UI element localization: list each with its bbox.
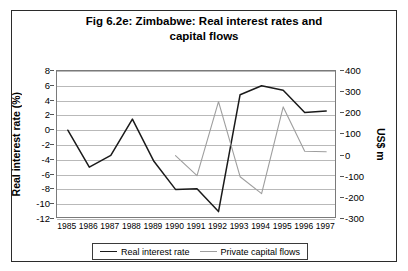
y-axis-left-tick-mark xyxy=(50,85,54,86)
x-axis-tick-label: 1985 xyxy=(57,221,76,231)
y-axis-right-tick-label: 100 xyxy=(345,128,361,139)
series-lines xyxy=(57,71,337,219)
x-axis-tick-label: 1987 xyxy=(100,221,119,231)
y-axis-left-tick-mark xyxy=(50,70,54,71)
y-axis-left-tick-mark xyxy=(50,159,54,160)
x-axis-tick-label: 1992 xyxy=(208,221,227,231)
x-axis-tick-label: 1993 xyxy=(230,221,249,231)
y-axis-right-tick-label: 300 xyxy=(345,86,361,97)
plot-area xyxy=(56,70,336,218)
chart-title-line-1: Fig 6.2e: Zimbabwe: Real interest rates … xyxy=(46,14,362,29)
chart-title: Fig 6.2e: Zimbabwe: Real interest rates … xyxy=(46,14,362,44)
x-axis-tick-label: 1997 xyxy=(316,221,335,231)
legend-swatch xyxy=(200,251,217,252)
y-axis-left-tick-label: -6 xyxy=(42,168,50,179)
x-axis-tick-label: 1990 xyxy=(165,221,184,231)
series-line xyxy=(68,86,326,212)
x-axis-tick-label: 1994 xyxy=(251,221,270,231)
y-axis-left-tick-label: -12 xyxy=(36,213,50,224)
y-axis-left-title-text: Real interest rate (%) xyxy=(10,92,22,196)
legend-swatch xyxy=(100,251,117,252)
chart-title-line-2: capital flows xyxy=(46,29,362,44)
y-axis-left-tick-label: -8 xyxy=(42,183,50,194)
y-axis-left-tick-label: -10 xyxy=(36,198,50,209)
legend-label: Real interest rate xyxy=(121,247,190,257)
y-axis-right: 4003002001000-100-200-300 xyxy=(340,70,380,218)
y-axis-left-tick-mark xyxy=(50,218,54,219)
series-line xyxy=(176,102,327,194)
chart-legend: Real interest ratePrivate capital flows xyxy=(92,243,308,260)
y-axis-left-title: Real interest rate (%) xyxy=(8,70,24,218)
y-axis-right-tick-label: -100 xyxy=(345,170,364,181)
x-axis-tick-label: 1986 xyxy=(79,221,98,231)
y-axis-left-tick-label: -4 xyxy=(42,153,50,164)
x-axis-tick-label: 1989 xyxy=(143,221,162,231)
x-axis-tick-label: 1988 xyxy=(122,221,141,231)
y-axis-left-tick-mark xyxy=(50,100,54,101)
y-axis-right-tick-label: 0 xyxy=(345,149,350,160)
x-axis-tick-label: 1995 xyxy=(273,221,292,231)
x-axis: 1985198619871988198919901991199219931994… xyxy=(56,221,336,235)
y-axis-left-tick-mark xyxy=(50,174,54,175)
y-axis-right-tick-label: 400 xyxy=(345,65,361,76)
y-axis-right-tick-mark xyxy=(340,112,344,113)
legend-entry: Real interest rate xyxy=(100,247,190,257)
x-axis-tick-label: 1991 xyxy=(187,221,206,231)
chart-figure: Fig 6.2e: Zimbabwe: Real interest rates … xyxy=(0,0,408,271)
x-axis-tick-label: 1996 xyxy=(294,221,313,231)
y-axis-right-tick-mark xyxy=(340,91,344,92)
y-axis-right-tick-mark xyxy=(340,218,344,219)
y-axis-right-tick-label: -200 xyxy=(345,191,364,202)
y-axis-right-tick-label: -300 xyxy=(345,213,364,224)
y-axis-right-tick-mark xyxy=(340,176,344,177)
legend-entry: Private capital flows xyxy=(200,247,301,257)
gridline xyxy=(57,219,335,220)
y-axis-right-tick-mark xyxy=(340,197,344,198)
legend-label: Private capital flows xyxy=(221,247,301,257)
y-axis-right-tick-mark xyxy=(340,70,344,71)
y-axis-left-tick-mark xyxy=(50,203,54,204)
y-axis-left: 86420-2-4-6-8-10-12 xyxy=(24,70,54,218)
y-axis-left-tick-mark xyxy=(50,114,54,115)
y-axis-left-tick-mark xyxy=(50,129,54,130)
y-axis-left-tick-label: -2 xyxy=(42,139,50,150)
y-axis-right-tick-mark xyxy=(340,133,344,134)
y-axis-left-tick-mark xyxy=(50,144,54,145)
y-axis-right-tick-mark xyxy=(340,155,344,156)
y-axis-left-tick-mark xyxy=(50,188,54,189)
y-axis-right-tick-label: 200 xyxy=(345,107,361,118)
